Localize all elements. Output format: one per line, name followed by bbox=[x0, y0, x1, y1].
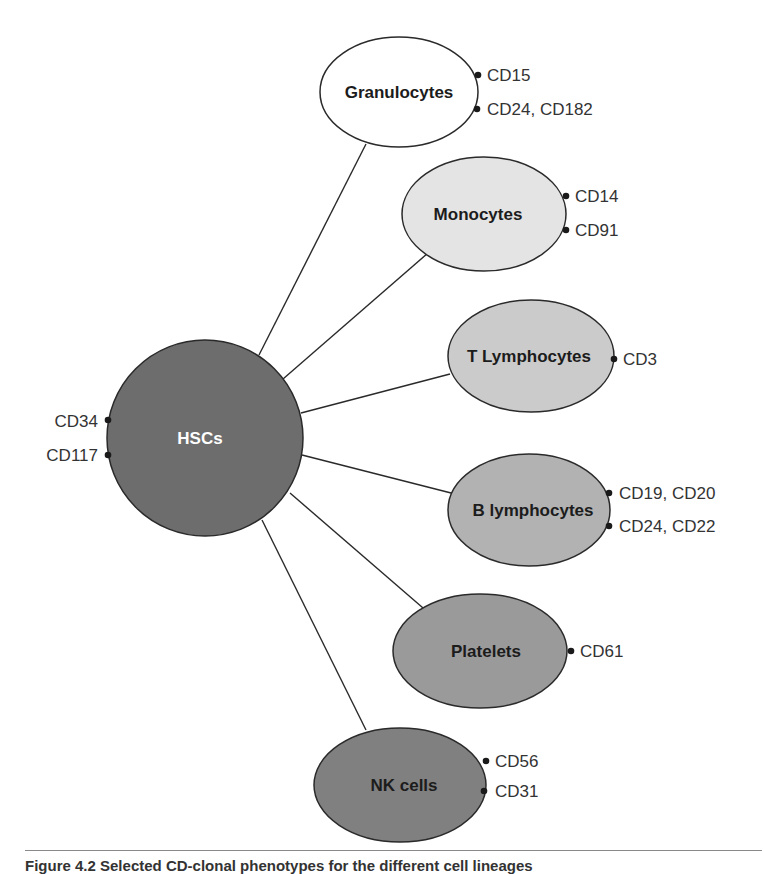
marker-dot bbox=[483, 758, 490, 765]
marker-dot bbox=[481, 788, 488, 795]
nk-cells-marker-1: CD56 bbox=[495, 752, 538, 771]
platelets-label: Platelets bbox=[451, 642, 521, 661]
platelets-marker-1: CD61 bbox=[580, 642, 623, 661]
hscs-marker-2: CD117 bbox=[46, 446, 98, 465]
hscs-label: HSCs bbox=[177, 429, 222, 448]
figure-caption: Figure 4.2 Selected CD-clonal phenotypes… bbox=[25, 857, 533, 874]
marker-dot bbox=[105, 417, 112, 424]
caption-divider bbox=[25, 850, 762, 851]
t-lymphocytes-label: T Lymphocytes bbox=[467, 347, 591, 366]
node-t-lymphocytes: T Lymphocytes CD3 bbox=[448, 300, 657, 412]
granulocytes-label: Granulocytes bbox=[345, 83, 454, 102]
b-lymphocytes-label: B lymphocytes bbox=[473, 501, 594, 520]
node-hscs: HSCs CD34 CD117 bbox=[46, 340, 303, 536]
hscs-marker-1: CD34 bbox=[55, 412, 98, 431]
marker-dot bbox=[474, 106, 481, 113]
link-hsc-nk-cells bbox=[262, 520, 366, 730]
node-nk-cells: NK cells CD56 CD31 bbox=[314, 728, 538, 842]
granulocytes-marker-2: CD24, CD182 bbox=[487, 100, 593, 119]
hematopoietic-lineage-diagram: Granulocytes CD15 CD24, CD182 Monocytes … bbox=[0, 0, 764, 850]
marker-dot bbox=[606, 490, 613, 497]
marker-dot bbox=[475, 72, 482, 79]
node-granulocytes: Granulocytes CD15 CD24, CD182 bbox=[320, 37, 593, 147]
b-lymphocytes-marker-1: CD19, CD20 bbox=[619, 484, 715, 503]
marker-dot bbox=[105, 452, 112, 459]
nk-cells-marker-2: CD31 bbox=[495, 782, 538, 801]
marker-dot bbox=[606, 523, 613, 530]
node-platelets: Platelets CD61 bbox=[393, 594, 623, 708]
link-hsc-monocytes bbox=[283, 253, 428, 379]
marker-dot bbox=[568, 648, 575, 655]
nk-cells-label: NK cells bbox=[370, 776, 437, 795]
link-hsc-t-lymphocytes bbox=[301, 374, 450, 413]
monocytes-label: Monocytes bbox=[434, 205, 523, 224]
marker-dot bbox=[563, 193, 570, 200]
b-lymphocytes-marker-2: CD24, CD22 bbox=[619, 517, 715, 536]
marker-dot bbox=[611, 356, 618, 363]
node-b-lymphocytes: B lymphocytes CD19, CD20 CD24, CD22 bbox=[448, 454, 715, 566]
node-monocytes: Monocytes CD14 CD91 bbox=[402, 157, 618, 271]
link-hsc-platelets bbox=[290, 493, 430, 614]
marker-dot bbox=[563, 227, 570, 234]
t-lymphocytes-marker-1: CD3 bbox=[623, 350, 657, 369]
link-hsc-granulocytes bbox=[259, 144, 366, 355]
monocytes-marker-2: CD91 bbox=[575, 221, 618, 240]
monocytes-marker-1: CD14 bbox=[575, 187, 618, 206]
granulocytes-marker-1: CD15 bbox=[487, 66, 530, 85]
link-hsc-b-lymphocytes bbox=[302, 455, 455, 494]
